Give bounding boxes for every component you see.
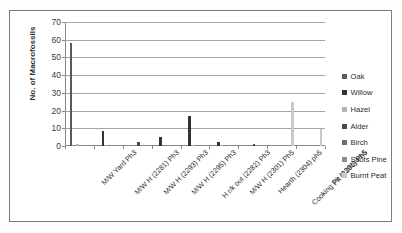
bar-group	[214, 22, 237, 146]
y-tick-label: 20	[52, 106, 61, 116]
bar	[159, 137, 162, 146]
bar-group	[243, 22, 266, 146]
bar	[105, 145, 108, 146]
y-tick-label: 50	[52, 52, 61, 62]
legend-swatch-icon	[342, 74, 347, 79]
legend-swatch-icon	[342, 157, 347, 162]
plot-area: 010203040506070	[65, 22, 325, 146]
legend-swatch-icon	[342, 90, 347, 95]
legend-item[interactable]: Birch	[342, 134, 402, 151]
legend-label: Willow	[351, 88, 373, 97]
bar	[70, 43, 73, 146]
bar-group	[70, 22, 93, 146]
bar	[137, 142, 140, 146]
y-tick-label: 60	[52, 35, 61, 45]
bar	[188, 116, 191, 146]
legend-swatch-icon	[342, 124, 347, 129]
legend-item[interactable]: Alder	[342, 118, 402, 135]
y-tick-label: 10	[52, 123, 61, 133]
y-axis-title: No. of Macrofossils	[28, 4, 37, 124]
legend-label: Burnt Peat	[351, 171, 387, 180]
bar	[76, 144, 79, 146]
bar-group	[185, 22, 208, 146]
legend-label: Birch	[351, 138, 368, 147]
bar-group	[127, 22, 150, 146]
chart-legend: OakWillowHazelAlderBirchScots PineBurnt …	[342, 68, 402, 184]
bar-group	[272, 22, 295, 146]
chart-border: No. of Macrofossils 010203040506070 M/W …	[9, 10, 392, 222]
y-tick-label: 30	[52, 88, 61, 98]
y-tick-label: 0	[56, 141, 61, 151]
bar-series-container	[65, 22, 325, 146]
bar	[253, 144, 256, 146]
legend-item[interactable]: Burnt Peat	[342, 168, 402, 185]
legend-item[interactable]: Hazel	[342, 101, 402, 118]
legend-swatch-icon	[342, 140, 347, 145]
legend-label: Alder	[351, 122, 369, 131]
bar	[102, 131, 105, 146]
bar-group	[301, 22, 324, 146]
bar	[320, 129, 323, 146]
bar-group	[99, 22, 122, 146]
legend-label: Hazel	[351, 105, 370, 114]
bar	[220, 145, 223, 146]
legend-item[interactable]: Oak	[342, 68, 402, 85]
legend-item[interactable]: Scots Pine	[342, 151, 402, 168]
x-axis-labels: M/W Yard Ph3M/W H (2281) Ph3M/W H (2293)…	[65, 148, 345, 228]
x-axis-label: M/W Yard Ph3	[99, 148, 138, 187]
legend-label: Scots Pine	[351, 155, 387, 164]
y-tick-label: 40	[52, 70, 61, 80]
y-tick-label: 70	[52, 17, 61, 27]
legend-swatch-icon	[342, 107, 347, 112]
legend-label: Oak	[351, 72, 365, 81]
chart-figure: No. of Macrofossils 010203040506070 M/W …	[0, 0, 402, 233]
bar	[192, 145, 195, 146]
bar	[291, 102, 294, 146]
bar-group	[156, 22, 179, 146]
legend-item[interactable]: Willow	[342, 85, 402, 102]
legend-swatch-icon	[342, 173, 347, 178]
